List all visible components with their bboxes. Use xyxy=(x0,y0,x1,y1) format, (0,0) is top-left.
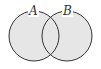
label-b: B xyxy=(62,4,72,18)
venn-diagram: A B xyxy=(0,0,101,69)
shaded-union xyxy=(9,11,92,61)
label-a: A xyxy=(28,4,38,18)
